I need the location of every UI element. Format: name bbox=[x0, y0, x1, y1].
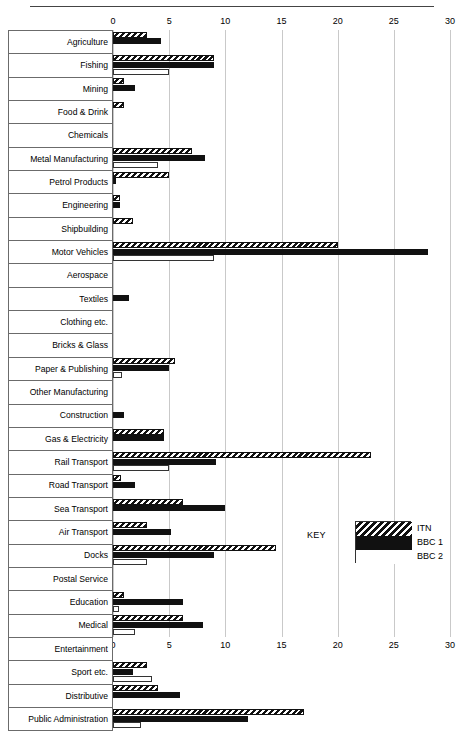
bar-group bbox=[113, 287, 450, 310]
bar-bbc1 bbox=[113, 412, 124, 418]
bar-bbc1 bbox=[113, 669, 133, 675]
bar-group bbox=[113, 474, 450, 497]
bar-itn bbox=[113, 78, 124, 84]
bar-group bbox=[113, 264, 450, 287]
bar-bbc1 bbox=[113, 459, 216, 465]
bar-group bbox=[113, 707, 450, 730]
bar-itn bbox=[113, 102, 124, 108]
bar-itn bbox=[113, 429, 164, 435]
legend-swatch-bbc1 bbox=[356, 536, 412, 550]
category-label: Entertainment bbox=[9, 638, 112, 661]
category-label: Metal Manufacturing bbox=[9, 148, 112, 171]
bar-itn bbox=[113, 358, 175, 364]
top-divider bbox=[30, 6, 434, 7]
x-tick-bottom-5: 25 bbox=[389, 640, 399, 650]
bar-itn bbox=[113, 475, 121, 481]
category-label: Agriculture bbox=[9, 31, 112, 54]
legend-label-itn: ITN bbox=[417, 523, 432, 533]
bar-group bbox=[113, 660, 450, 683]
bar-itn bbox=[113, 499, 183, 505]
bar-bbc1 bbox=[113, 505, 225, 511]
bar-group bbox=[113, 614, 450, 637]
legend-swatch-itn bbox=[356, 522, 412, 536]
bar-group bbox=[113, 170, 450, 193]
x-tick-bottom-1: 5 bbox=[167, 640, 172, 650]
category-label-column: AgricultureFishingMiningFood & DrinkChem… bbox=[8, 30, 113, 731]
category-label: Sea Transport bbox=[9, 498, 112, 521]
category-label: Textiles bbox=[9, 288, 112, 311]
legend-label-bbc2: BBC 2 bbox=[417, 551, 443, 561]
bar-bbc1 bbox=[113, 482, 135, 488]
bar-group bbox=[113, 357, 450, 380]
bar-group bbox=[113, 497, 450, 520]
category-label: Paper & Publishing bbox=[9, 358, 112, 381]
bar-itn bbox=[113, 55, 214, 61]
bar-group bbox=[113, 684, 450, 707]
x-tick-top-6: 30 bbox=[445, 16, 455, 26]
bar-itn bbox=[113, 522, 147, 528]
bar-group bbox=[113, 77, 450, 100]
category-label: Food & Drink bbox=[9, 101, 112, 124]
bar-group bbox=[113, 427, 450, 450]
x-tick-bottom-3: 15 bbox=[276, 640, 286, 650]
bar-bbc1 bbox=[113, 155, 205, 161]
bar-group bbox=[113, 310, 450, 333]
bar-group bbox=[113, 30, 450, 53]
bar-bbc1 bbox=[113, 295, 129, 301]
bar-bbc1 bbox=[113, 529, 171, 535]
bar-bbc2 bbox=[113, 465, 169, 471]
category-label: Public Administration bbox=[9, 708, 112, 731]
bar-group bbox=[113, 567, 450, 590]
bar-itn bbox=[113, 685, 158, 691]
bar-bbc1 bbox=[113, 178, 116, 184]
x-tick-bottom-4: 20 bbox=[333, 640, 343, 650]
legend-label-bbc1: BBC 1 bbox=[417, 537, 443, 547]
x-tick-top-1: 5 bbox=[167, 16, 172, 26]
category-label: Sport etc. bbox=[9, 661, 112, 684]
bar-bbc2 bbox=[113, 255, 214, 261]
bar-bbc1 bbox=[113, 62, 214, 68]
category-label: Bricks & Glass bbox=[9, 334, 112, 357]
legend-key-label: KEY bbox=[307, 530, 326, 540]
category-label: Gas & Electricity bbox=[9, 428, 112, 451]
bar-group bbox=[113, 100, 450, 123]
bar-itn bbox=[113, 242, 338, 248]
bar-bbc2 bbox=[113, 372, 122, 378]
category-label: Medical bbox=[9, 615, 112, 638]
category-label: Petrol Products bbox=[9, 171, 112, 194]
bar-bbc1 bbox=[113, 365, 169, 371]
bar-itn bbox=[113, 545, 276, 551]
category-label: Construction bbox=[9, 405, 112, 428]
bar-group bbox=[113, 147, 450, 170]
bar-group bbox=[113, 450, 450, 473]
category-label: Rail Transport bbox=[9, 451, 112, 474]
bar-bbc2 bbox=[113, 559, 147, 565]
category-label: Road Transport bbox=[9, 475, 112, 498]
gridline-30 bbox=[450, 30, 451, 637]
bar-itn bbox=[113, 709, 304, 715]
bar-itn bbox=[113, 32, 147, 38]
x-tick-bottom-6: 30 bbox=[445, 640, 455, 650]
category-label: Fishing bbox=[9, 54, 112, 77]
bar-itn bbox=[113, 195, 120, 201]
bar-group bbox=[113, 193, 450, 216]
category-label: Mining bbox=[9, 78, 112, 101]
bar-bbc2 bbox=[113, 162, 158, 168]
x-tick-top-5: 25 bbox=[389, 16, 399, 26]
category-label: Chemicals bbox=[9, 124, 112, 147]
category-label: Engineering bbox=[9, 194, 112, 217]
x-tick-top-2: 10 bbox=[220, 16, 230, 26]
category-label: Clothing etc. bbox=[9, 311, 112, 334]
x-tick-top-3: 15 bbox=[276, 16, 286, 26]
bar-itn bbox=[113, 172, 169, 178]
x-tick-top-0: 0 bbox=[110, 16, 115, 26]
bar-bbc1 bbox=[113, 85, 135, 91]
category-label: Aerospace bbox=[9, 264, 112, 287]
category-label: Motor Vehicles bbox=[9, 241, 112, 264]
bar-itn bbox=[113, 148, 192, 154]
x-axis-top: 0 5 10 15 20 25 30 bbox=[0, 16, 466, 30]
category-label: Distributive bbox=[9, 685, 112, 708]
category-label: Docks bbox=[9, 545, 112, 568]
bar-itn bbox=[113, 218, 133, 224]
